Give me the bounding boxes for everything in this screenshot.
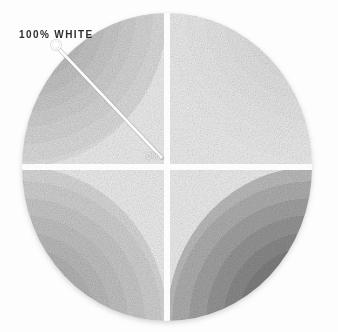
quadrant-upper-right-gradient — [167, 13, 312, 167]
quadrant-lower-left-gradient — [22, 167, 167, 321]
quadrant-upper-right — [167, 13, 312, 167]
tone-disc — [22, 13, 312, 321]
quadrant-lower-right — [167, 167, 312, 321]
callout-label-zero-percent: 0% — [146, 151, 160, 161]
vertical-axis-line — [164, 13, 170, 321]
quadrant-lower-left — [22, 167, 167, 321]
quadrant-lower-right-gradient — [167, 167, 312, 321]
figure-root: 100% WHITE 0% — [0, 0, 338, 332]
callout-label-100-percent-white: 100% WHITE — [19, 29, 94, 40]
